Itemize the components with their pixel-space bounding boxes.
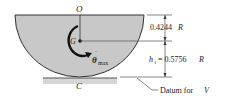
semicircle-body <box>15 15 144 77</box>
theta-dot: · <box>95 49 97 55</box>
dim-arrow-mid-down-icon <box>164 41 167 45</box>
label-theta: θ <box>92 55 97 65</box>
label-o: O <box>76 4 83 14</box>
label-lower-dim: = 0.5756 <box>158 55 187 64</box>
label-upper-dim: 0.4244 <box>150 23 172 32</box>
label-h: h <box>149 55 153 64</box>
diagram-canvas: O G C θ · max 0.4244 R h 1 = 0.5756 R Da… <box>0 0 226 103</box>
datum-leader <box>137 78 158 90</box>
label-upper-unit: R <box>177 23 183 32</box>
dim-arrow-top-icon <box>164 15 167 19</box>
semicircle-diagram: O G C θ · max 0.4244 R h 1 = 0.5756 R Da… <box>0 0 226 103</box>
label-datum: Datum for <box>160 86 193 95</box>
label-datum-var: V <box>204 86 210 95</box>
label-theta-sub: max <box>98 60 108 66</box>
label-h-sub: 1 <box>154 60 157 65</box>
label-c: C <box>76 81 83 91</box>
label-lower-unit: R <box>198 55 204 64</box>
label-g: G <box>70 37 76 46</box>
dim-arrow-bottom-icon <box>164 73 167 77</box>
dim-arrow-mid-up-icon <box>164 37 167 41</box>
